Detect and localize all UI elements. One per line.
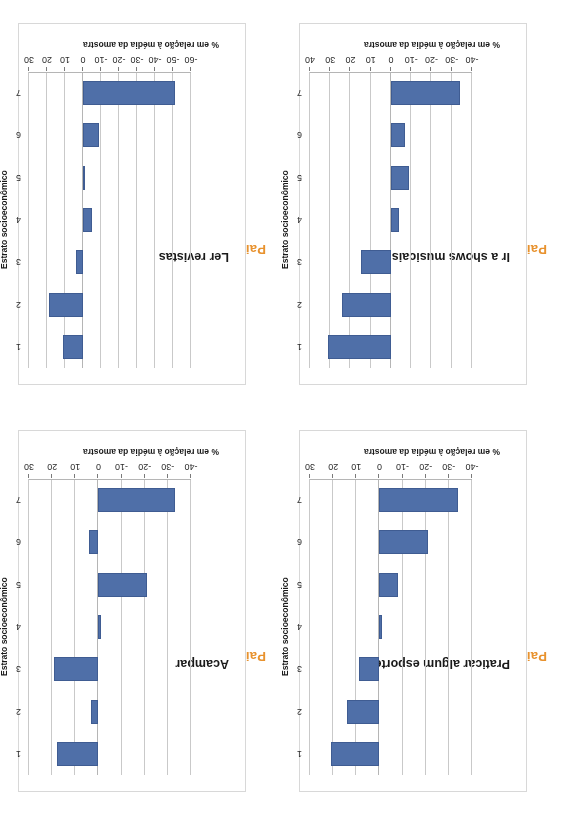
- gridline: [121, 479, 122, 775]
- y-tick-mark: [190, 67, 191, 71]
- x-category-label: 5: [297, 580, 302, 590]
- panel-g-plot: 3020100-10-20-30-401234567% em relação à…: [29, 479, 191, 775]
- bar: [328, 335, 391, 359]
- gridline: [136, 72, 137, 368]
- y-tick-label: -60: [184, 55, 197, 65]
- x-category-label: 1: [16, 749, 21, 759]
- bar: [359, 657, 380, 681]
- x-category-label: 6: [16, 537, 21, 547]
- bar: [92, 700, 99, 724]
- y-tick-mark: [190, 474, 191, 478]
- gridline: [51, 479, 52, 775]
- x-category-label: 3: [16, 257, 21, 267]
- panel-h-plot-body: 3020100-10-20-30-40-50-601234567% em rel…: [29, 72, 191, 368]
- axis-line: [310, 72, 472, 73]
- y-tick-label: 10: [70, 462, 80, 472]
- y-tick-mark: [451, 67, 452, 71]
- x-category-label: 2: [16, 707, 21, 717]
- y-tick-mark: [309, 67, 310, 71]
- x-axis-title: Estrato socioeconômico: [280, 479, 290, 775]
- bar: [89, 530, 98, 554]
- bar: [391, 123, 405, 147]
- bar: [54, 657, 98, 681]
- x-axis-title: Estrato socioeconômico: [0, 479, 9, 775]
- y-tick-label: 30: [305, 462, 315, 472]
- gridline: [190, 479, 191, 775]
- y-tick-label: -30: [445, 55, 458, 65]
- gridline: [350, 72, 351, 368]
- gridline: [471, 72, 472, 368]
- x-category-label: 7: [297, 88, 302, 98]
- x-category-label: 2: [16, 300, 21, 310]
- y-tick-label: 30: [325, 55, 335, 65]
- panel-h: Painel H Ler revistas 3020100-10-20-30-4…: [0, 0, 280, 407]
- y-tick-mark: [448, 474, 449, 478]
- panel-g-chart: Acampar 3020100-10-20-30-401234567% em r…: [18, 430, 246, 792]
- x-category-label: 4: [297, 622, 302, 632]
- bar: [83, 166, 85, 190]
- gridline: [190, 72, 191, 368]
- y-tick-mark: [172, 67, 173, 71]
- y-tick-label: 20: [328, 462, 338, 472]
- x-category-label: 4: [297, 215, 302, 225]
- y-tick-mark: [121, 474, 122, 478]
- y-tick-label: 30: [24, 55, 34, 65]
- y-tick-mark: [118, 67, 119, 71]
- y-tick-mark: [28, 474, 29, 478]
- y-tick-label: -10: [396, 462, 409, 472]
- bar: [347, 700, 379, 724]
- gridline: [431, 72, 432, 368]
- y-tick-mark: [28, 67, 29, 71]
- bar: [342, 293, 391, 317]
- y-axis-title: % em relação à média da amostra: [83, 40, 219, 50]
- x-category-label: 5: [16, 173, 21, 183]
- x-category-label: 1: [16, 342, 21, 352]
- bar: [83, 81, 175, 105]
- y-axis-title: % em relação à média da amostra: [364, 447, 500, 457]
- gridline: [74, 479, 75, 775]
- y-tick-mark: [390, 67, 391, 71]
- y-tick-label: -20: [112, 55, 125, 65]
- x-category-label: 6: [16, 130, 21, 140]
- y-tick-mark: [355, 474, 356, 478]
- y-tick-mark: [431, 67, 432, 71]
- y-tick-label: -20: [419, 462, 432, 472]
- y-tick-label: 30: [24, 462, 34, 472]
- gridline: [144, 479, 145, 775]
- bar: [98, 615, 100, 639]
- y-tick-mark: [144, 474, 145, 478]
- x-category-label: 1: [297, 342, 302, 352]
- bar: [361, 250, 391, 274]
- axis-line: [29, 479, 191, 480]
- x-category-label: 2: [297, 707, 302, 717]
- bar: [98, 488, 174, 512]
- panel-f-plot-body: 403020100-10-20-30-401234567% em relação…: [310, 72, 472, 368]
- y-tick-label: 0: [388, 55, 393, 65]
- x-category-label: 2: [297, 300, 302, 310]
- gridline: [425, 479, 426, 775]
- y-tick-label: 0: [80, 55, 85, 65]
- bar: [63, 335, 83, 359]
- gridline: [370, 72, 371, 368]
- y-tick-mark: [370, 67, 371, 71]
- x-category-label: 4: [16, 622, 21, 632]
- y-tick-mark: [46, 67, 47, 71]
- panel-grid: Painel E Praticar algum esporte 3020100-…: [0, 0, 561, 814]
- gridline: [471, 479, 472, 775]
- y-tick-mark: [154, 67, 155, 71]
- y-tick-label: -40: [465, 462, 478, 472]
- y-tick-mark: [471, 474, 472, 478]
- bar: [391, 166, 409, 190]
- y-axis-title: % em relação à média da amostra: [364, 40, 500, 50]
- gridline: [100, 72, 101, 368]
- gridline: [28, 479, 29, 775]
- scanned-page: Painel E Praticar algum esporte 3020100-…: [0, 0, 561, 814]
- panel-f-plot: 403020100-10-20-30-401234567% em relação…: [310, 72, 472, 368]
- y-tick-mark: [167, 474, 168, 478]
- y-tick-label: -50: [166, 55, 179, 65]
- gridline: [402, 479, 403, 775]
- y-tick-label: -40: [184, 462, 197, 472]
- x-axis-title: Estrato socioeconômico: [280, 72, 290, 368]
- x-category-label: 3: [16, 664, 21, 674]
- y-tick-mark: [350, 67, 351, 71]
